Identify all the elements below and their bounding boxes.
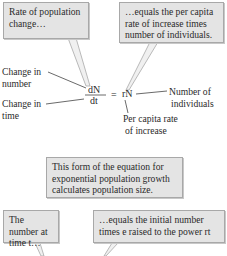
label-number-of-individuals: Number of individuals (169, 86, 214, 109)
callout-text: …equals the per capita rate of increase … (125, 6, 213, 40)
callout-rate-of-change: Rate of population change… (3, 2, 89, 39)
callout-text: The number at time t… (9, 214, 48, 248)
callout-form-note: This form of the equation for exponentia… (46, 157, 183, 198)
label-line: of increase (123, 125, 178, 137)
label-line: Number of (169, 86, 214, 98)
equation-numerator: dN (88, 84, 100, 95)
equation-equals: = (111, 89, 117, 100)
label-change-in-number: Change in number (2, 66, 41, 89)
equation-rhs: rN (122, 88, 133, 99)
label-line: Change in (2, 66, 41, 78)
label-per-capita-rate: Per capita rate of increase (123, 113, 178, 136)
callout-text: This form of the equation for exponentia… (52, 161, 170, 195)
label-line: individuals (169, 98, 214, 110)
callout-equals-per-capita: …equals the per capita rate of increase … (119, 2, 224, 43)
label-line: time (2, 110, 41, 122)
callout-equals-initial: …equals the initial number times e raise… (93, 210, 225, 243)
label-line: Per capita rate (123, 113, 178, 125)
callout-text: Rate of population change… (9, 6, 80, 29)
label-line: Change in (2, 98, 41, 110)
label-change-in-time: Change in time (2, 98, 41, 121)
callout-number-at-time: The number at time t… (3, 210, 59, 243)
callout-text: …equals the initial number times e raise… (99, 214, 210, 237)
equation-denominator: dt (90, 95, 98, 106)
label-line: number (2, 78, 41, 90)
